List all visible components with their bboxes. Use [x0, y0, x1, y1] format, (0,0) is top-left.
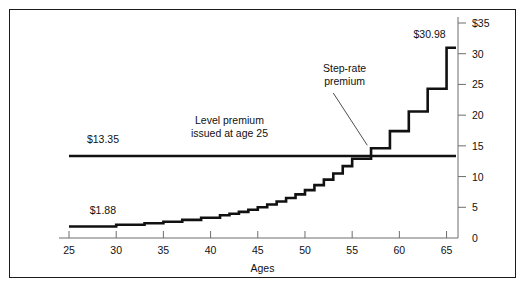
premium-comparison-chart: 253035404550556065051015202530$35Ages$1.… [10, 10, 517, 279]
annotation-step-note-line2: premium [324, 75, 365, 87]
y-axis-ticks: 051015202530$35 [458, 17, 490, 244]
x-tick-label-30: 30 [110, 244, 122, 256]
x-tick-label-25: 25 [63, 244, 75, 256]
annotation-low-value: $1.88 [90, 204, 116, 216]
x-axis-title: Ages [251, 262, 275, 274]
chart-frame-border: 253035404550556065051015202530$35Ages$1.… [9, 9, 516, 278]
annotation-high-value: $30.98 [414, 28, 446, 40]
x-tick-label-65: 65 [441, 244, 453, 256]
annotation-level-value: $13.35 [87, 133, 119, 145]
annotation-level-note-line1: Level premium [195, 114, 264, 126]
y-tick-label-0: 0 [472, 232, 478, 244]
x-tick-label-55: 55 [346, 244, 358, 256]
step-rate-leader-line [333, 93, 367, 145]
x-tick-label-50: 50 [299, 244, 311, 256]
annotation-level-note-line2: issued at age 25 [191, 127, 268, 139]
y-tick-label-30: 30 [472, 48, 484, 60]
x-tick-label-45: 45 [252, 244, 264, 256]
x-tick-label-40: 40 [205, 244, 217, 256]
annotation-step-note-line1: Step-rate [323, 62, 366, 74]
y-tick-label-35: $35 [472, 17, 490, 29]
x-tick-label-35: 35 [158, 244, 170, 256]
y-tick-label-20: 20 [472, 109, 484, 121]
y-tick-label-15: 15 [472, 140, 484, 152]
y-tick-label-25: 25 [472, 78, 484, 90]
x-axis-ticks: 253035404550556065 [63, 231, 452, 256]
y-tick-label-10: 10 [472, 171, 484, 183]
chart-figure: 253035404550556065051015202530$35Ages$1.… [0, 0, 527, 288]
y-tick-label-5: 5 [472, 201, 478, 213]
x-tick-label-60: 60 [394, 244, 406, 256]
